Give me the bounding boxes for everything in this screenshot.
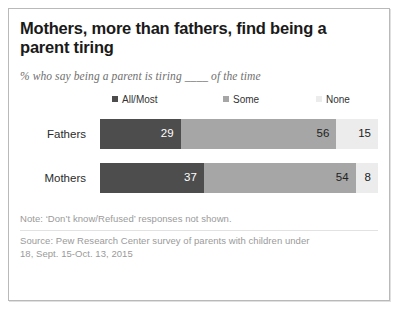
chart-source: Source: Pew Research Center survey of pa… xyxy=(20,235,378,261)
bar-segment-value: 56 xyxy=(317,128,337,140)
legend-item-none: None xyxy=(316,94,350,105)
legend-item-some: Some xyxy=(223,94,259,105)
bar-segment-all-most: 37 xyxy=(100,163,204,193)
bar-segment-value: 8 xyxy=(365,172,378,184)
legend-item-label: All/Most xyxy=(122,94,158,105)
bar-segment-none: 15 xyxy=(336,119,378,149)
legend-item-label: None xyxy=(326,94,350,105)
bar-segment-value: 54 xyxy=(336,172,356,184)
chart-source-line-1: Source: Pew Research Center survey of pa… xyxy=(20,235,378,248)
bar-track: 29 56 15 xyxy=(100,119,378,149)
legend-swatch-icon xyxy=(316,96,322,102)
bar-segment-none: 8 xyxy=(356,163,378,193)
bar-segment-value: 15 xyxy=(358,128,378,140)
chart-card-inner: Mothers, more than fathers, find being a… xyxy=(9,9,389,260)
bar-row-fathers: Fathers 29 56 15 xyxy=(20,119,378,149)
legend-item-all-most: All/Most xyxy=(112,94,158,105)
legend-item-label: Some xyxy=(233,94,259,105)
chart-footnotes: Note: ‘Don’t know/Refused’ responses not… xyxy=(20,209,378,260)
bar-segment-some: 56 xyxy=(181,119,337,149)
bar-row-label: Mothers xyxy=(20,163,92,193)
bar-row-mothers: Mothers 37 54 8 xyxy=(20,163,378,193)
bar-track: 37 54 8 xyxy=(100,163,378,193)
chart-subtitle: % who say being a parent is tiring ____ … xyxy=(20,70,378,82)
legend-swatch-icon xyxy=(223,96,229,102)
bar-segment-some: 54 xyxy=(204,163,356,193)
legend-swatch-icon xyxy=(112,96,118,102)
chart-plot-area: Fathers 29 56 15 Mothers xyxy=(20,119,378,207)
chart-source-line-2: 18, Sept. 15-Oct. 13, 2015 xyxy=(20,248,378,261)
bar-segment-all-most: 29 xyxy=(100,119,181,149)
bar-segment-value: 37 xyxy=(184,172,204,184)
footnote-divider xyxy=(20,230,378,231)
bar-segment-value: 29 xyxy=(161,128,181,140)
chart-card: Mothers, more than fathers, find being a… xyxy=(8,8,390,301)
chart-title: Mothers, more than fathers, find being a… xyxy=(20,19,370,58)
bar-row-label: Fathers xyxy=(20,119,92,149)
chart-note: Note: ‘Don’t know/Refused’ responses not… xyxy=(20,213,378,226)
chart-legend: All/Most Some None xyxy=(20,94,378,112)
